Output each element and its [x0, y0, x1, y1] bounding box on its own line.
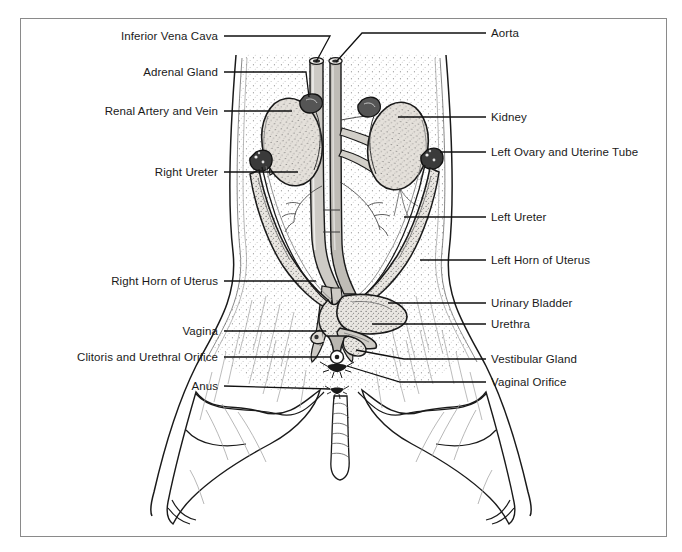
label-renal-artery-and-vein: Renal Artery and Vein — [40, 105, 218, 117]
label-adrenal-gland: Adrenal Gland — [40, 66, 218, 78]
label-urethra: Urethra — [491, 318, 530, 330]
label-kidney: Kidney — [491, 111, 527, 123]
clitoris-and-urethral-orifice — [331, 351, 344, 364]
tail — [331, 396, 349, 480]
label-right-horn-of-uterus: Right Horn of Uterus — [40, 275, 218, 287]
label-vaginal-orifice: Vaginal Orifice — [491, 376, 566, 388]
label-right-ureter: Right Ureter — [40, 166, 218, 178]
label-vagina: Vagina — [40, 325, 218, 337]
figure-page: Inferior Vena Cava Adrenal Gland Renal A… — [0, 0, 682, 552]
label-left-ureter: Left Ureter — [491, 211, 546, 223]
label-clitoris-and-urethral-orifice: Clitoris and Urethral Orifice — [28, 351, 218, 363]
label-left-ovary-and-uterine-tube: Left Ovary and Uterine Tube — [491, 146, 638, 158]
label-urinary-bladder: Urinary Bladder — [491, 297, 572, 309]
right-adrenal-gland — [300, 94, 323, 113]
label-vestibular-gland: Vestibular Gland — [491, 353, 577, 365]
label-inferior-vena-cava: Inferior Vena Cava — [40, 30, 218, 42]
label-aorta: Aorta — [491, 27, 519, 39]
label-anus: Anus — [40, 380, 218, 392]
left-adrenal-gland — [358, 97, 381, 117]
label-left-horn-of-uterus: Left Horn of Uterus — [491, 254, 590, 266]
